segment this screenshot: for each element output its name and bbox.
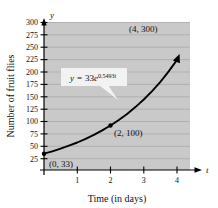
y-axis-tick-labels: 25 50 75 100 125 150 175 200 225 250 275…	[26, 18, 38, 163]
y-tick-label: 150	[26, 93, 38, 102]
x-tick-label: 3	[142, 176, 146, 185]
equation-lhs: y	[69, 73, 74, 83]
x-tick-label: 2	[109, 176, 113, 185]
point-label-origin: (0, 33)	[49, 159, 73, 169]
y-axis-title: Number of fruit flies	[5, 54, 16, 137]
y-tick-label: 75	[30, 130, 38, 139]
x-tick-label: 4	[175, 176, 179, 185]
y-tick-label: 300	[26, 18, 38, 27]
point-label-mid: (2, 100)	[114, 128, 143, 138]
fruit-fly-growth-figure: 25 50 75 100 125 150 175 200 225 250 275…	[0, 0, 218, 208]
y-tick-label: 200	[26, 68, 38, 77]
equation-exponent-coefficient: 0.5493	[98, 73, 115, 79]
y-tick-label: 175	[26, 80, 38, 89]
exponential-growth-chart: 25 50 75 100 125 150 175 200 225 250 275…	[0, 0, 218, 208]
y-tick-label: 25	[30, 155, 38, 164]
y-tick-label: 125	[26, 105, 38, 114]
plot-area-background	[44, 22, 190, 170]
x-tick-label: 1	[75, 176, 79, 185]
y-tick-label: 275	[26, 31, 38, 40]
data-point-marker	[42, 152, 46, 156]
y-axis-letter: y	[49, 10, 54, 20]
x-axis-tick-labels: 1 2 3 4	[75, 176, 179, 185]
x-axis-title: Time (in days)	[88, 193, 147, 205]
y-tick-label: 50	[30, 142, 38, 151]
point-label-end: (4, 300)	[129, 24, 158, 34]
y-tick-label: 100	[26, 117, 38, 126]
y-tick-label: 250	[26, 43, 38, 52]
equation-equals: =	[77, 73, 82, 83]
y-tick-label: 225	[26, 55, 38, 64]
x-axis-letter: t	[206, 165, 209, 175]
data-point-marker	[108, 123, 112, 127]
